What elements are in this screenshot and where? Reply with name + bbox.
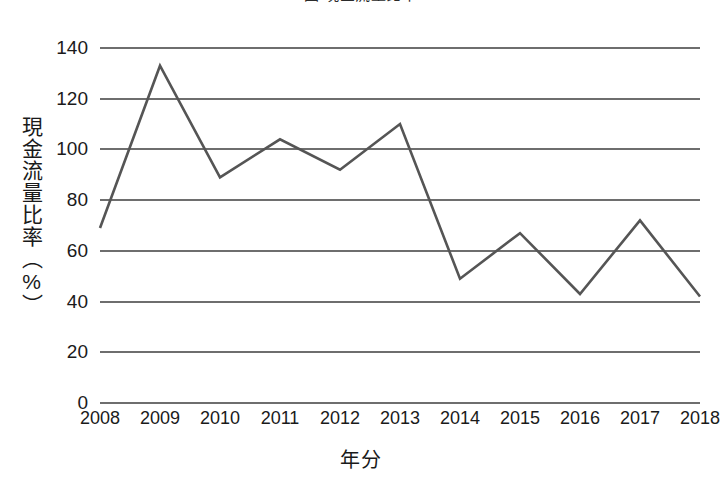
cash-flow-ratio-line-chart: 圖 現金流量比率 現金流量比率（%） 年分 020406080100120140… xyxy=(0,0,721,486)
data-series-line xyxy=(100,48,700,403)
y-tick-label-20: 20 xyxy=(0,342,88,361)
y-tick-label-80: 80 xyxy=(0,190,88,209)
y-tick-label-120: 120 xyxy=(0,89,88,108)
y-tick-label-60: 60 xyxy=(0,241,88,260)
y-tick-label-40: 40 xyxy=(0,292,88,311)
x-tick-label-2009: 2009 xyxy=(130,408,190,428)
x-tick-label-2011: 2011 xyxy=(250,408,310,428)
x-tick-label-2012: 2012 xyxy=(310,408,370,428)
x-axis-title: 年分 xyxy=(0,448,721,472)
x-tick-label-2018: 2018 xyxy=(670,408,721,428)
x-tick-label-2010: 2010 xyxy=(190,408,250,428)
x-tick-label-2014: 2014 xyxy=(430,408,490,428)
x-tick-label-2008: 2008 xyxy=(70,408,130,428)
x-tick-label-2016: 2016 xyxy=(550,408,610,428)
y-tick-label-140: 140 xyxy=(0,38,88,57)
x-tick-label-2013: 2013 xyxy=(370,408,430,428)
x-tick-label-2017: 2017 xyxy=(610,408,670,428)
y-tick-label-100: 100 xyxy=(0,139,88,158)
x-tick-label-2015: 2015 xyxy=(490,408,550,428)
series-polyline xyxy=(100,66,700,297)
chart-title: 圖 現金流量比率 xyxy=(0,0,721,3)
